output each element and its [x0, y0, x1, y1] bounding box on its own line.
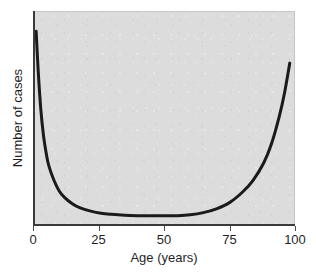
- curve-svg: [33, 12, 295, 225]
- y-axis-title: Number of cases: [10, 38, 26, 198]
- x-axis-tick: [99, 226, 100, 231]
- x-axis-tick-label: 50: [134, 232, 194, 247]
- chart-figure: 0255075100 Age (years) Number of cases: [0, 0, 316, 278]
- x-axis-tick-label: 25: [69, 232, 129, 247]
- x-axis-tick-label: 75: [200, 232, 260, 247]
- y-axis-line: [33, 11, 35, 226]
- x-axis-tick-label: 0: [3, 232, 63, 247]
- x-axis-tick: [230, 226, 231, 231]
- x-axis-tick: [164, 226, 165, 231]
- x-axis-tick: [295, 226, 296, 231]
- x-axis-tick: [33, 226, 34, 231]
- x-axis-title: Age (years): [33, 250, 295, 266]
- x-axis-tick-label: 100: [265, 232, 316, 247]
- bathtub-curve-line: [36, 31, 290, 216]
- plot-area: [33, 11, 295, 224]
